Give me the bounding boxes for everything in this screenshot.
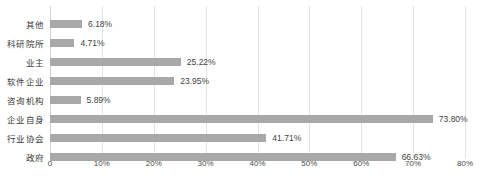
bar-value-label: 23.95% — [180, 76, 209, 86]
bar — [50, 96, 81, 104]
x-tick-label: 30% — [198, 159, 214, 168]
figure-caption — [0, 176, 495, 185]
bar — [50, 20, 82, 28]
bar — [50, 115, 433, 123]
x-tick-label: 10% — [94, 159, 110, 168]
category-label: 咨询机构 — [7, 94, 44, 106]
category-label: 其他 — [26, 18, 44, 30]
bar-value-label: 73.80% — [439, 114, 468, 124]
bar-value-label: 6.18% — [88, 19, 112, 29]
bar-value-label: 5.89% — [87, 95, 111, 105]
x-tick-label: 0 — [48, 159, 52, 168]
bar — [50, 39, 74, 47]
x-tick-label: 60% — [353, 159, 369, 168]
category-label: 软件企业 — [7, 75, 44, 87]
x-tick-label: 80% — [457, 159, 473, 168]
category-label: 科研院所 — [7, 37, 44, 49]
bar — [50, 58, 181, 66]
bar-row: 企业自身73.80% — [50, 109, 465, 128]
bar — [50, 134, 266, 142]
category-label: 业主 — [26, 56, 44, 68]
x-tick-label: 40% — [249, 159, 265, 168]
x-axis: 010%20%30%40%50%60%70%80% — [50, 159, 465, 173]
x-tick-label: 20% — [146, 159, 162, 168]
bar-row: 其他6.18% — [50, 14, 465, 33]
bar-row: 行业协会41.71% — [50, 128, 465, 147]
bar — [50, 77, 174, 85]
gridline-80 — [465, 6, 466, 158]
plot-area: 其他6.18%科研院所4.71%业主25.22%软件企业23.95%咨询机构5.… — [50, 6, 465, 158]
category-label: 企业自身 — [7, 113, 44, 125]
category-label: 行业协会 — [7, 132, 44, 144]
bar-row: 咨询机构5.89% — [50, 90, 465, 109]
category-label: 政府 — [26, 151, 44, 163]
bar-value-label: 25.22% — [187, 57, 216, 67]
x-tick-label: 50% — [301, 159, 317, 168]
bar-row: 科研院所4.71% — [50, 33, 465, 52]
bar-value-label: 4.71% — [80, 38, 104, 48]
bar-row: 业主25.22% — [50, 52, 465, 71]
bar-chart-figure: 其他6.18%科研院所4.71%业主25.22%软件企业23.95%咨询机构5.… — [0, 0, 495, 185]
x-tick-label: 70% — [405, 159, 421, 168]
bar-row: 软件企业23.95% — [50, 71, 465, 90]
bar-value-label: 41.71% — [272, 133, 301, 143]
